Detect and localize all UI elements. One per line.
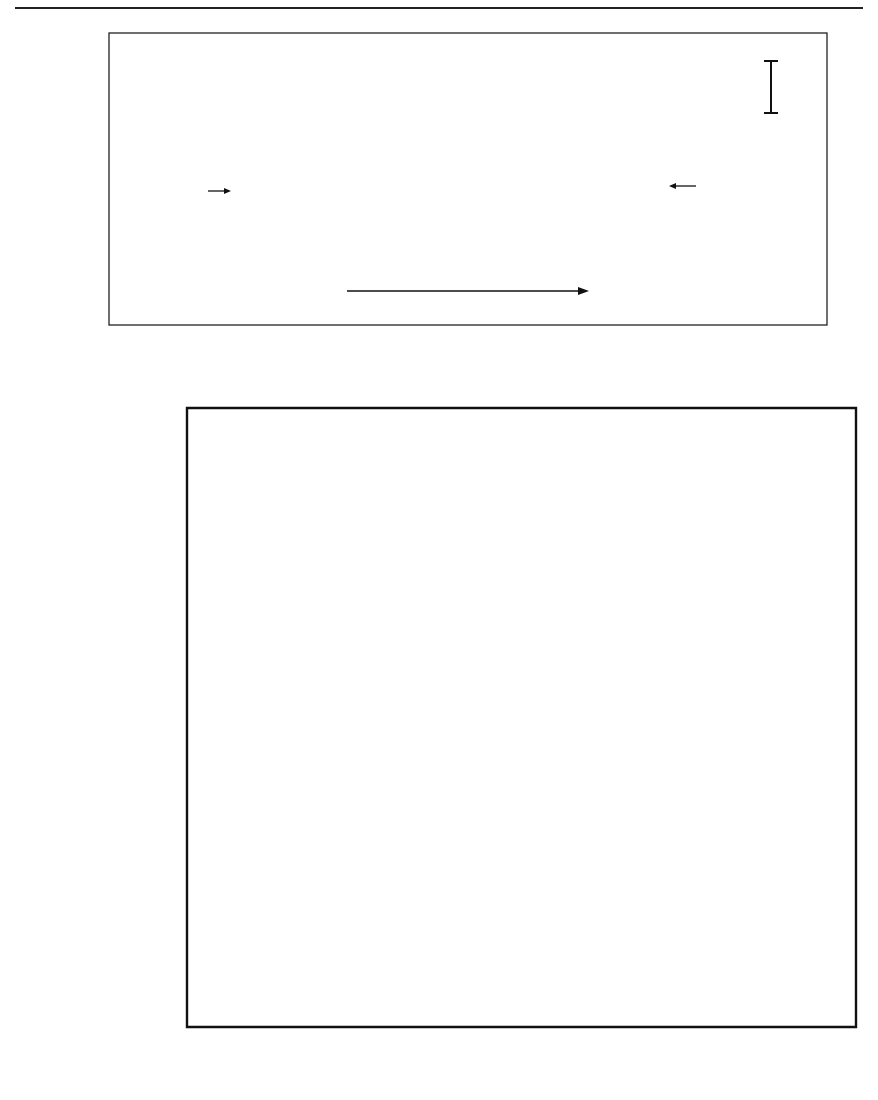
arrow-right-icon	[208, 188, 231, 194]
panel-a	[109, 33, 827, 325]
sedimentation-arrow-icon	[347, 287, 589, 295]
panel-a-frame	[109, 33, 827, 325]
panel-b	[187, 408, 856, 1027]
arrow-left-icon	[669, 183, 696, 189]
scale-bar-icon	[764, 61, 778, 113]
figure	[0, 0, 878, 1100]
panel-b-frame	[187, 408, 856, 1027]
